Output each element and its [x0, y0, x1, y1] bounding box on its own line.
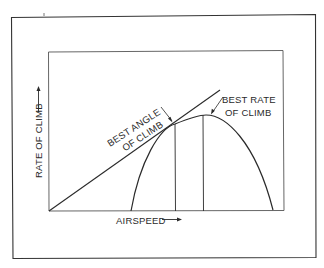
- best-angle-drop-line: [175, 124, 176, 211]
- y-axis-label: RATE OF CLIMB: [33, 103, 44, 178]
- x-axis-arrowhead-icon: [177, 218, 182, 222]
- best-rate-drop-line: [203, 115, 204, 211]
- y-axis-arrowhead-icon: [37, 86, 41, 91]
- x-axis-label: AIRSPEED: [116, 215, 166, 226]
- best-rate-label-line1: BEST RATE: [222, 94, 276, 105]
- climb-performance-diagram: BEST ANGLE OF CLIMB BEST RATE OF CLIMB R…: [0, 0, 324, 268]
- best-angle-arrowhead-icon: [168, 117, 173, 123]
- best-rate-label-line2: OF CLIMB: [225, 107, 271, 118]
